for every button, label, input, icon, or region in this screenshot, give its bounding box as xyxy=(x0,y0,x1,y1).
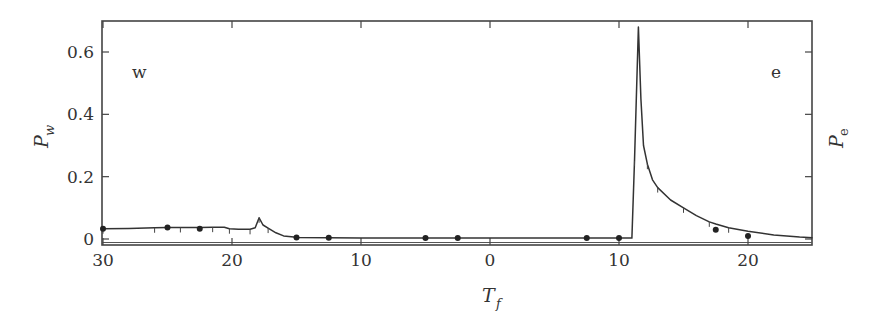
x-tick-label: 0 xyxy=(485,250,496,270)
y-axis-left-label: P w xyxy=(30,125,57,149)
x-tick-label: 20 xyxy=(737,250,759,270)
data-point-marker xyxy=(745,233,751,239)
plot-frame-group xyxy=(102,21,812,245)
x-ticks: 30201001020 xyxy=(92,21,759,270)
data-point-marker xyxy=(584,235,590,241)
annotation-e: e xyxy=(771,62,781,82)
markers-group xyxy=(100,224,751,241)
x-tick-label: 30 xyxy=(92,250,114,270)
data-point-marker xyxy=(165,224,171,230)
data-point-marker xyxy=(100,226,106,232)
annotation-w: w xyxy=(132,62,147,82)
data-point-marker xyxy=(326,235,332,241)
chart: 30201001020 00.20.40.6 w e T f P w P e xyxy=(0,0,877,328)
x-axis-label-sub: f xyxy=(495,296,503,311)
y-tick-label: 0 xyxy=(83,229,94,249)
x-tick-label: 10 xyxy=(350,250,372,270)
data-point-marker xyxy=(455,235,461,241)
plot-frame xyxy=(102,21,812,245)
y-axis-left-label-sub: w xyxy=(42,125,57,136)
series-line-P xyxy=(103,27,813,238)
data-point-marker xyxy=(423,235,429,241)
y-tick-label: 0.4 xyxy=(67,104,94,124)
x-axis-label: T f xyxy=(482,284,503,311)
y-axis-right-label: P e xyxy=(825,128,851,149)
x-tick-label: 10 xyxy=(608,250,630,270)
data-point-marker xyxy=(713,227,719,233)
data-point-marker xyxy=(294,234,300,240)
data-point-marker xyxy=(197,226,203,232)
x-tick-label: 20 xyxy=(221,250,243,270)
data-point-marker xyxy=(616,235,622,241)
y-axis-right-label-sub: e xyxy=(836,128,851,136)
series-group xyxy=(103,27,813,238)
x-axis-label-main: T xyxy=(482,284,496,306)
y-tick-label: 0.6 xyxy=(67,42,94,62)
y-tick-label: 0.2 xyxy=(67,167,94,187)
